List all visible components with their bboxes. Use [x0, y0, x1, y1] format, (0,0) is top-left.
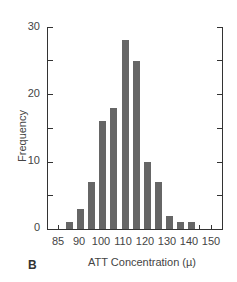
bar-105-110 [110, 108, 117, 229]
y-tick-label: 0 [18, 222, 40, 233]
y-tick [47, 128, 53, 129]
y-axis-title: Frequency [16, 110, 28, 162]
bar-130-135 [166, 216, 173, 229]
y-tick [47, 60, 53, 61]
y-tick-right [217, 60, 223, 61]
bar-120-125 [144, 162, 151, 229]
y-tick-right [217, 195, 223, 196]
y-tick-right [217, 162, 223, 163]
y-tick [47, 162, 53, 163]
bar-115-120 [133, 61, 140, 229]
x-tick [58, 225, 59, 229]
y-tick-label: 20 [18, 88, 40, 99]
x-axis [47, 229, 223, 230]
y-tick-right [217, 128, 223, 129]
bar-135-140 [177, 222, 184, 229]
bar-125-130 [155, 182, 162, 229]
bar-100-105 [99, 121, 106, 229]
y-tick [47, 94, 53, 95]
panel-label: B [28, 258, 37, 272]
bar-90-95 [77, 209, 84, 229]
y-tick-label: 30 [18, 21, 40, 32]
bar-85-90 [66, 222, 73, 229]
bar-110-115 [122, 40, 129, 229]
bar-95-100 [88, 182, 95, 229]
y-tick [47, 27, 53, 28]
x-tick [199, 225, 200, 229]
y-tick-right [217, 94, 223, 95]
x-tick-label: 150 [196, 236, 226, 247]
y-tick-right [217, 27, 223, 28]
bar-140-145 [188, 222, 195, 229]
y-tick [47, 195, 53, 196]
x-tick [211, 225, 212, 229]
x-axis-title: ATT Concentration (µ) [88, 256, 196, 268]
